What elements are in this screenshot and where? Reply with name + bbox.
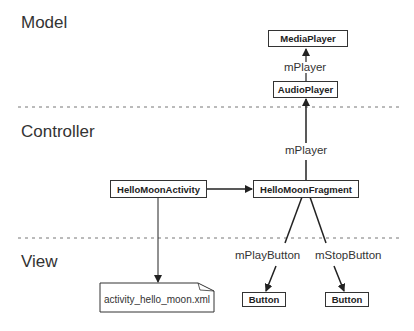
- edge-label-audio-to-media: mPlayer: [284, 61, 326, 73]
- node-stop-button: Button: [325, 292, 369, 307]
- node-media-player: MediaPlayer: [268, 30, 348, 47]
- layer-label-controller: Controller: [21, 122, 95, 142]
- diagram-lines: [0, 0, 414, 331]
- edge-label-fragment-to-play: mPlayButton: [235, 249, 300, 261]
- edge-label-fragment-to-stop: mStopButton: [315, 249, 381, 261]
- node-hello-moon-fragment: HelloMoonFragment: [253, 180, 359, 198]
- layer-label-model: Model: [21, 13, 67, 33]
- node-play-button: Button: [242, 292, 286, 307]
- layer-label-view: View: [21, 252, 58, 272]
- node-audio-player: AudioPlayer: [273, 81, 338, 98]
- node-hello-moon-activity: HelloMoonActivity: [110, 180, 207, 198]
- edge-label-fragment-to-audio: mPlayer: [285, 144, 327, 156]
- node-layout-file: activity_hello_moon.xml: [100, 286, 214, 312]
